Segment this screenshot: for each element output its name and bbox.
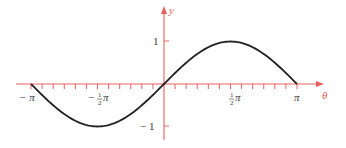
x-axis-arrow-icon (316, 81, 324, 87)
svg-text:1: 1 (230, 91, 234, 99)
x-tick-label-neg-half-pi: − 1 2 π (88, 91, 109, 107)
sine-chart: y θ 1 − 1 − π − 1 2 π 1 2 π π (0, 0, 346, 148)
svg-text:1: 1 (98, 91, 102, 99)
y-axis-label: y (168, 4, 174, 16)
y-tick-label-neg-1: − 1 (140, 120, 154, 132)
svg-text:2: 2 (98, 99, 102, 107)
y-axis-arrow-icon (161, 6, 167, 14)
x-axis-label: θ (322, 89, 328, 101)
svg-text:π: π (103, 91, 109, 103)
x-tick-label-half-pi: 1 2 π (229, 91, 241, 107)
svg-text:−: − (88, 91, 94, 103)
y-tick-label-1: 1 (153, 35, 159, 47)
svg-text:2: 2 (230, 99, 234, 107)
x-tick-label-pi: π (294, 91, 300, 103)
x-tick-label-neg-pi: − π (19, 91, 35, 103)
svg-text:π: π (235, 91, 241, 103)
